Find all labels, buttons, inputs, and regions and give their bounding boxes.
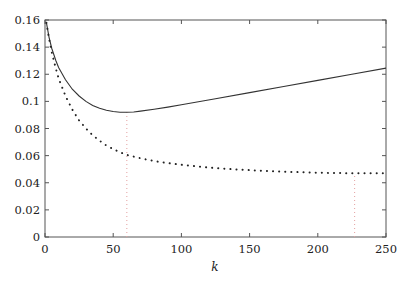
y-tick-label: 0.02 xyxy=(14,203,40,217)
y-tick-label: 0.16 xyxy=(14,13,40,27)
y-tick-label: 0.14 xyxy=(14,40,40,54)
x-tick-label: 200 xyxy=(307,242,329,256)
data-series xyxy=(46,23,386,174)
line-chart: 050100150200250 00.020.040.060.080.10.12… xyxy=(0,0,408,283)
x-axis-label: k xyxy=(211,260,218,274)
x-axis-ticks: 050100150200250 xyxy=(41,20,397,256)
plot-border xyxy=(45,20,386,237)
y-tick-label: 0.06 xyxy=(14,149,40,163)
y-tick-label: 0.1 xyxy=(22,94,40,108)
y-tick-label: 0.12 xyxy=(14,67,40,81)
x-tick-label: 50 xyxy=(106,242,121,256)
series-solid xyxy=(46,23,386,113)
y-tick-label: 0 xyxy=(33,230,40,244)
plot-frame xyxy=(45,20,386,237)
y-tick-label: 0.04 xyxy=(14,176,40,190)
x-tick-label: 250 xyxy=(375,242,397,256)
x-tick-label: 100 xyxy=(170,242,192,256)
x-tick-label: 150 xyxy=(239,242,261,256)
x-tick-label: 0 xyxy=(41,242,48,256)
vertical-marker-lines xyxy=(127,112,355,237)
y-axis-ticks: 00.020.040.060.080.10.120.140.16 xyxy=(14,13,386,244)
series-dotted xyxy=(46,23,386,174)
y-tick-label: 0.08 xyxy=(14,122,40,136)
